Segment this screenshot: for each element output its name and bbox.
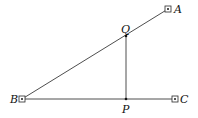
point-p-dot-icon [125,98,128,101]
label-p: P [121,103,130,116]
point-a-marker-icon [165,6,171,12]
point-c-marker-icon [172,96,178,102]
label-q: Q [121,23,130,36]
point-b-marker-icon [19,96,25,102]
label-a: A [173,3,182,16]
geometry-diagram: A B C Q P [0,0,198,118]
label-c: C [180,93,189,106]
label-b: B [9,93,18,106]
segment-BA [22,9,168,99]
